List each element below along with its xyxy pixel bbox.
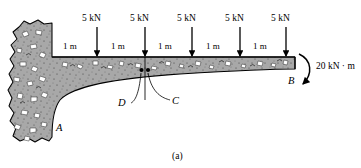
point-d-marker xyxy=(139,68,143,72)
moment-arrow xyxy=(299,54,310,84)
load-label-4: 5 kN xyxy=(225,14,244,24)
beam-diagram-svg xyxy=(0,0,361,168)
dimension-label-2: 1 m xyxy=(111,42,125,51)
figure-caption: (a) xyxy=(172,152,183,162)
point-c-marker xyxy=(146,68,150,72)
moment-label: 20 kN · m xyxy=(316,62,355,72)
load-label-1: 5 kN xyxy=(82,14,101,24)
dimension-label-1: 1 m xyxy=(63,42,77,51)
leader-line-c xyxy=(148,73,170,100)
end-label-b: B xyxy=(288,76,294,87)
load-label-2: 5 kN xyxy=(130,14,149,24)
point-label-c: C xyxy=(172,96,179,107)
point-label-d: D xyxy=(118,98,126,109)
load-label-3: 5 kN xyxy=(177,14,196,24)
figure-container: 5 kN 5 kN 5 kN 5 kN 5 kN 1 m 1 m 1 m 1 m… xyxy=(0,0,361,168)
concrete-body xyxy=(8,20,295,142)
load-label-5: 5 kN xyxy=(271,14,290,24)
dimension-label-5: 1 m xyxy=(253,42,267,51)
support-label-a: A xyxy=(56,123,62,134)
dimension-label-3: 1 m xyxy=(158,42,172,51)
dimension-label-4: 1 m xyxy=(206,42,220,51)
